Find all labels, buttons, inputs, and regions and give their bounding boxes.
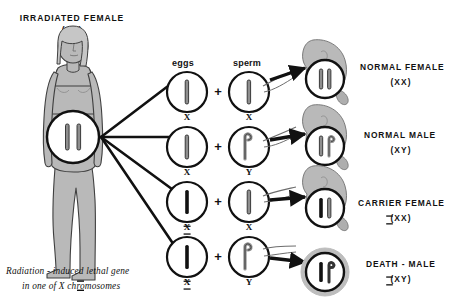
plus-sign-row-3: +: [210, 194, 226, 210]
outcome-label-row-4: DEATH - MALE: [366, 259, 436, 269]
outcome-label-row-2: NORMAL MALE: [364, 130, 436, 140]
sperm-circle-row-4: [229, 237, 296, 277]
egg-circle-row-3: [167, 182, 207, 222]
sperm-label-row-3: X: [236, 222, 262, 232]
outcome-label-row-1: NORMAL FEMALE: [360, 62, 444, 72]
result-circle-row-4: [301, 248, 349, 296]
sperm-label-row-2: Y: [236, 167, 262, 177]
outcome-label-row-3: CARRIER FEMALE: [358, 198, 445, 208]
egg-circle-row-4: [167, 237, 207, 277]
outcome-karyotype-row-1: (XX): [353, 77, 449, 87]
egg-label-row-4: X: [174, 277, 200, 287]
egg-label-row-1: X: [174, 112, 200, 122]
egg-circle-row-2: [167, 127, 207, 167]
egg-label-row-3: X: [174, 222, 200, 232]
sperm-label-row-4: Y: [236, 277, 262, 287]
outcome-karyotype-row-2: (XY): [353, 145, 449, 155]
caption-line-1: Radiation - induced lethal gene: [6, 266, 129, 276]
outcome-karyotype-row-4: (XY): [353, 274, 449, 284]
sperm-label-row-1: X: [236, 112, 262, 122]
sperm-circle-row-2: [229, 127, 296, 167]
plus-sign-row-1: +: [210, 84, 226, 100]
outcome-karyotype-row-3: (XX): [353, 213, 449, 223]
meiosis-fan-lines: [101, 80, 176, 248]
result-circle-row-3: [306, 189, 344, 227]
plus-sign-row-2: +: [210, 139, 226, 155]
egg-circle-row-1: [167, 72, 207, 112]
cross-row-4: [167, 237, 349, 296]
genetics-inheritance-diagram: IRRADIATED FEMALE (XX) eggs sperm: [0, 0, 449, 306]
plus-sign-row-4: +: [210, 249, 226, 265]
caption-line-2: in one of X chromosomes: [22, 281, 120, 291]
cross-row-1: [167, 40, 348, 112]
result-circle-row-1: [306, 60, 344, 98]
egg-label-row-2: X: [174, 167, 200, 177]
result-circle-row-2: [306, 127, 344, 165]
sperm-circle-row-3: [229, 182, 296, 222]
mother-karyotype-circle: [47, 111, 99, 163]
